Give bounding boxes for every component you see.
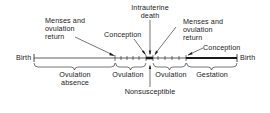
intrauterine-death-label: Intrauterine death bbox=[127, 4, 173, 20]
conception-1-label: Conception bbox=[104, 31, 141, 39]
arrowhead-menses-return-1 bbox=[109, 53, 115, 57]
phase-ovulation-1-label: Ovulation bbox=[108, 71, 148, 79]
phase-ovulation-2-label: Ovulation bbox=[152, 71, 190, 79]
menses-return-2-label: Menses and ovulation return bbox=[183, 18, 223, 42]
phase-braces bbox=[34, 63, 237, 70]
brace-ovulation-1 bbox=[116, 63, 147, 70]
arrowhead-conception-2 bbox=[188, 52, 193, 55]
conception-2-label: Conception bbox=[203, 44, 240, 52]
menses-return-1-label: Menses and ovulation return bbox=[45, 17, 85, 41]
arrowhead-conception-1 bbox=[142, 50, 146, 55]
reproductive-timeline-diagram: Birth Birth Menses and ovulation return … bbox=[0, 0, 270, 113]
intrauterine-death-line2: death bbox=[127, 12, 173, 20]
brace-gestation bbox=[187, 63, 238, 70]
phase-ovulation-absence-line2: absence bbox=[50, 79, 100, 87]
nonsusceptible-label: Nonsusceptible bbox=[120, 88, 180, 96]
menses-return-2-line3: return bbox=[183, 34, 223, 42]
menses-return-1-line3: return bbox=[45, 33, 85, 41]
birth-left-label: Birth bbox=[16, 54, 31, 62]
arrowhead-nonsusceptible bbox=[149, 65, 151, 70]
birth-right-label: Birth bbox=[240, 54, 255, 62]
phase-gestation-label: Gestation bbox=[192, 71, 232, 79]
brace-ovulation-2 bbox=[153, 63, 186, 70]
phase-ovulation-absence-label: Ovulation absence bbox=[50, 71, 100, 87]
arrowheads bbox=[109, 50, 192, 69]
arrowhead-intrauterine-death bbox=[149, 51, 151, 56]
brace-ovulation-absence bbox=[34, 63, 115, 70]
pointer-menses-return-2 bbox=[155, 27, 176, 54]
